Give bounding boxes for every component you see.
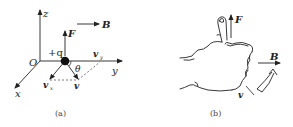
- force-label: F: [67, 28, 76, 39]
- lorentz-force-figure: z y x O B F +q v x v v y θ: [0, 0, 293, 127]
- charge-dot: [61, 57, 70, 66]
- right-hand-drawing: [180, 17, 253, 91]
- velocity-label-b: v: [238, 90, 244, 100]
- x-axis-label: x: [15, 88, 21, 99]
- magnetic-field-label-b: B: [269, 51, 278, 62]
- velocity-line-b: [246, 86, 254, 95]
- velocity-x-subscript: x: [50, 85, 53, 91]
- z-axis-label: z: [42, 8, 49, 19]
- caption-a: (a): [55, 109, 66, 118]
- velocity-y-label: v: [93, 49, 99, 59]
- caption-b: (b): [210, 109, 221, 118]
- panel-a: z y x O B F +q v x v v y θ: [15, 8, 122, 118]
- dashed-v-to-vy: [78, 62, 100, 80]
- velocity-label: v: [74, 81, 80, 91]
- force-label-b: F: [234, 14, 243, 25]
- panel-b: F B v (b): [180, 14, 280, 118]
- y-axis-label: y: [111, 65, 118, 76]
- angle-label: θ: [75, 64, 81, 74]
- velocity-x-label: v: [43, 80, 49, 90]
- origin-label: O: [29, 57, 37, 68]
- charge-label: +q: [48, 47, 63, 58]
- curl-arrow-icon: [257, 69, 277, 92]
- magnetic-field-label: B: [101, 19, 110, 30]
- angle-arc: [69, 61, 71, 66]
- velocity-y-subscript: y: [99, 54, 103, 61]
